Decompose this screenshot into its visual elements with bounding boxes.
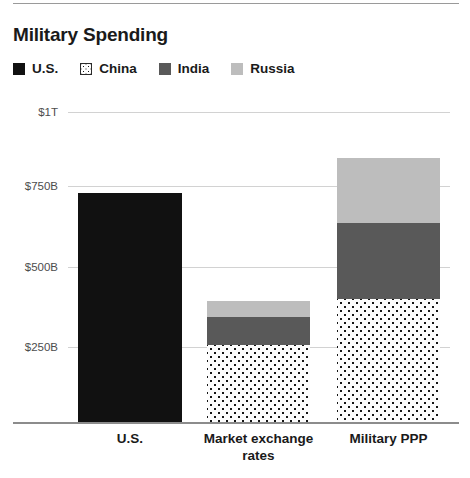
bar-segment-china-market[interactable] (207, 345, 310, 422)
xlabel-us: U.S. (70, 430, 190, 447)
gridline-1t (68, 112, 450, 113)
ytick-label-250b: $250B (0, 341, 58, 353)
ytick-label-1t: $1T (0, 106, 58, 118)
bar-segment-china-ppp[interactable] (337, 299, 440, 422)
xlabel-military-ppp: Military PPP (328, 430, 449, 447)
plot-area: $1T $750B $500B $250B U.S. Market exchan… (0, 0, 470, 478)
x-axis-baseline (13, 422, 459, 424)
chart-page: Military Spending U.S. China India Russi… (0, 0, 470, 478)
xlabel-market-exchange-rates: Market exchange rates (198, 430, 319, 464)
xlabel-market-line1: Market exchange (198, 430, 319, 447)
ytick-label-750b: $750B (0, 180, 58, 192)
bar-segment-india-ppp[interactable] (337, 223, 440, 299)
ytick-label-500b: $500B (0, 261, 58, 273)
xlabel-market-line2: rates (198, 447, 319, 464)
bar-segment-russia-ppp[interactable] (337, 158, 440, 223)
bar-segment-india-market[interactable] (207, 317, 310, 345)
xlabel-us-line1: U.S. (70, 430, 190, 447)
bar-segment-russia-market[interactable] (207, 301, 310, 317)
bar-segment-us-total[interactable] (78, 193, 182, 422)
xlabel-ppp-line1: Military PPP (328, 430, 449, 447)
